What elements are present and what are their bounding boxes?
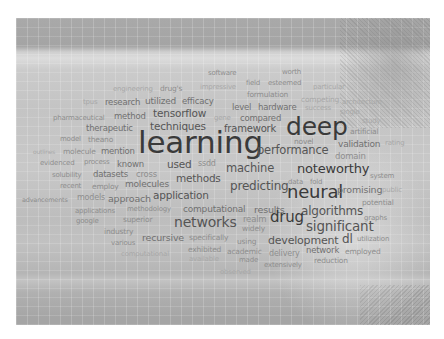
word-mention: mention [101, 147, 135, 156]
word-rating: rating [385, 140, 405, 147]
word-various: various [111, 240, 135, 247]
word-used: used [167, 159, 191, 170]
word-utilization: utilization [357, 236, 389, 243]
word-system: system [370, 173, 394, 180]
word-recent: recent [60, 183, 81, 190]
word-predicting: predicting [230, 180, 288, 192]
word-competing: competing [301, 96, 339, 104]
word-solubility: solubility [52, 172, 81, 179]
word-esteemed: esteemed [268, 80, 301, 87]
word-public: public [382, 187, 402, 194]
word-hardware: hardware [258, 103, 296, 112]
word-networks: networks [174, 215, 237, 229]
word-drug: drug [270, 210, 304, 225]
word-algorithms: algorithms [301, 205, 363, 217]
word-molecule: molecule [63, 148, 96, 156]
word-using: using [237, 238, 256, 246]
word-employ: employ [92, 183, 119, 191]
word-research: research [105, 98, 140, 107]
word-potential: potential [362, 199, 394, 207]
word-known: known [117, 160, 144, 169]
word-computational: computational [183, 205, 245, 214]
word-recursive: recursive [142, 233, 184, 243]
word-worth: worth [282, 69, 301, 76]
word-success: success [305, 105, 331, 112]
word-exhibited: exhibited [188, 246, 221, 254]
word-methodology: methodology [127, 206, 171, 213]
word-field: field [246, 80, 260, 87]
word-model: model [60, 136, 81, 143]
word-dl: dl [342, 233, 353, 245]
word-superior: superior [123, 216, 152, 224]
word-learning: learning [138, 127, 263, 158]
word-industry: industry [104, 228, 133, 236]
word-significant: significant [306, 220, 374, 234]
word-validation: validation [338, 140, 380, 149]
word-observed: observed [220, 269, 251, 276]
word-architecture: architecture [342, 99, 382, 106]
word-approach: approach [108, 194, 151, 204]
word-efficacy: efficacy [182, 97, 214, 106]
word-methods: methods [176, 173, 221, 184]
word-delivery: delivery [269, 250, 300, 258]
word-reduction: reduction [314, 257, 348, 265]
word-drug-s: drug's [160, 85, 182, 93]
word-graphs: graphs [364, 215, 387, 222]
word-molecules: molecules [125, 180, 169, 189]
word-widely: widely [242, 225, 265, 233]
word-outlines: outlines [33, 149, 55, 155]
word-computational: computational [121, 251, 169, 258]
word-machine: machine [226, 163, 274, 175]
word-evidenced: evidenced [40, 160, 74, 167]
word-available: available [189, 256, 219, 263]
word-utilized: utilized [145, 97, 176, 106]
word-network: network [306, 246, 339, 255]
word-promising: promising [337, 185, 382, 195]
word-method: method [114, 112, 146, 121]
word-models: models [77, 194, 105, 202]
word-therapeutic: therapeutic [86, 124, 133, 133]
word-neural: neural [287, 183, 343, 201]
word-ssdd: ssdd [198, 160, 216, 168]
word-formulation: formulation [247, 91, 288, 99]
word-extensively: extensively [264, 262, 302, 269]
word-artificial: artificial [350, 128, 378, 136]
word-deep: deep [286, 114, 348, 139]
word-performance: performance [257, 145, 328, 157]
word-level: level [232, 103, 251, 112]
word-pharmaceutical: pharmaceutical [53, 115, 105, 122]
word-specifically: specifically [189, 234, 228, 242]
word-applications: applications [75, 208, 115, 215]
word-gene: gene [214, 115, 231, 122]
word-domain: domain [335, 152, 366, 161]
word-made: made [239, 257, 258, 264]
word-cross: cross [136, 170, 157, 179]
word-employed: employed [345, 248, 381, 256]
word-realm: realm [243, 215, 266, 224]
word-particular: particular [313, 84, 345, 91]
word-google: google [76, 218, 99, 225]
word-impressive: impressive [200, 84, 236, 91]
word-software: software [208, 70, 236, 77]
word-process: process [84, 159, 110, 166]
word-noteworthy: noteworthy [297, 162, 369, 175]
word-advancements: advancements [22, 197, 68, 204]
word-study: study [362, 118, 380, 125]
word-application: application [153, 190, 209, 201]
word-academic: academic [227, 248, 262, 256]
word-engineering: engineering [113, 86, 153, 93]
word-compared: compared [240, 114, 281, 123]
word-tensorflow: tensorflow [153, 108, 206, 119]
word-tpus: tpus [83, 99, 97, 106]
word-datasets: datasets [93, 170, 128, 179]
word-theano: theano [88, 136, 113, 144]
